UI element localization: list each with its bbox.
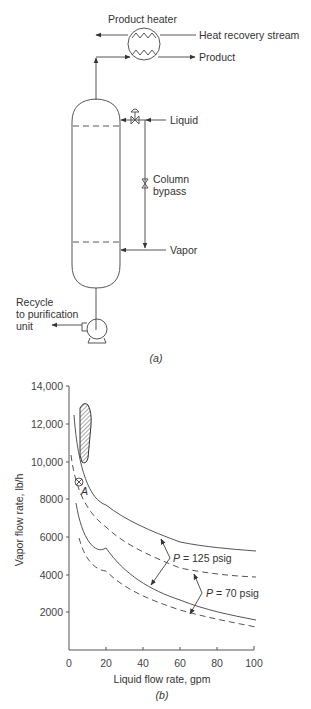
caption-a: (a) xyxy=(150,352,163,364)
x-ticks xyxy=(106,646,254,650)
flow-chart: 2000 4000 6000 8000 10,000 12,000 14,000… xyxy=(13,380,263,701)
operating-region-hatch xyxy=(80,404,91,463)
y-tick-label: 10,000 xyxy=(31,456,63,468)
recycle-label-3: unit xyxy=(16,320,33,332)
y-axis-label: Vapor flow rate, lb/h xyxy=(13,474,25,567)
point-a-label: A xyxy=(80,485,88,497)
x-tick-label: 0 xyxy=(66,657,72,669)
p125-arrow-down xyxy=(151,558,170,585)
x-tick-label: 20 xyxy=(100,657,112,669)
y-tick-label: 12,000 xyxy=(31,418,63,430)
recycle-label-1: Recycle xyxy=(16,296,54,308)
p70-arrow-up xyxy=(194,574,202,593)
curve-125-solid xyxy=(74,415,256,551)
x-tick-label: 60 xyxy=(174,657,186,669)
product-heater-label: Product heater xyxy=(108,13,177,25)
pump-icon xyxy=(82,319,107,343)
p125-label: P = 125 psig xyxy=(173,552,232,564)
x-tick-label: 80 xyxy=(211,657,223,669)
column-vessel xyxy=(72,99,120,288)
recycle-label-2: to purification xyxy=(16,308,79,320)
y-tick-label: 8000 xyxy=(40,493,64,505)
heat-exchanger-icon xyxy=(128,28,160,60)
y-tick-label: 14,000 xyxy=(31,380,63,392)
control-valve-icon xyxy=(131,109,139,124)
caption-b: (b) xyxy=(156,689,169,701)
product-label: Product xyxy=(199,51,235,63)
bypass-label-2: bypass xyxy=(153,185,186,197)
p70-label: P = 70 psig xyxy=(206,587,259,599)
y-tick-label: 4000 xyxy=(40,569,64,581)
process-diagram: Product heater Heat recovery stream Prod… xyxy=(16,13,300,364)
y-tick-label: 2000 xyxy=(40,606,64,618)
heat-recovery-label: Heat recovery stream xyxy=(199,29,300,41)
p125-arrow-up xyxy=(161,539,170,558)
x-tick-label: 40 xyxy=(137,657,149,669)
x-tick-label: 100 xyxy=(245,657,263,669)
x-axis-label: Liquid flow rate, gpm xyxy=(114,673,211,685)
vapor-label: Vapor xyxy=(170,244,198,256)
p70-arrow-down xyxy=(190,593,202,614)
liquid-label: Liquid xyxy=(170,114,198,126)
y-tick-label: 6000 xyxy=(40,531,64,543)
bypass-label-1: Column xyxy=(153,173,189,185)
figure-canvas: Product heater Heat recovery stream Prod… xyxy=(0,0,311,709)
